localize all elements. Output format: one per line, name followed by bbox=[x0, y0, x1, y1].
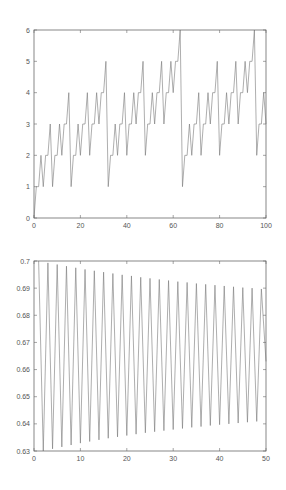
y-tick-label: 0.63 bbox=[16, 448, 30, 455]
x-tick-label: 40 bbox=[123, 222, 131, 229]
x-tick-label: 50 bbox=[262, 455, 270, 462]
x-tick-label: 60 bbox=[169, 222, 177, 229]
x-tick-label: 0 bbox=[32, 222, 36, 229]
x-tick-label: 80 bbox=[216, 222, 224, 229]
y-tick-label: 0.67 bbox=[16, 339, 30, 346]
y-tick-label: 0.65 bbox=[16, 393, 30, 400]
chart-top-binary-digit-sum: 0204060801000123456 bbox=[26, 27, 272, 230]
y-tick-label: 4 bbox=[26, 89, 30, 96]
x-tick-label: 40 bbox=[216, 455, 224, 462]
x-tick-label: 30 bbox=[169, 455, 177, 462]
y-tick-label: 5 bbox=[26, 58, 30, 65]
data-series-line bbox=[34, 30, 266, 218]
y-tick-label: 1 bbox=[26, 183, 30, 190]
x-tick-label: 0 bbox=[32, 455, 36, 462]
y-tick-label: 0.7 bbox=[20, 258, 30, 265]
y-tick-label: 2 bbox=[26, 152, 30, 159]
x-tick-label: 10 bbox=[77, 455, 85, 462]
y-tick-label: 0.64 bbox=[16, 420, 30, 427]
y-tick-label: 0.68 bbox=[16, 312, 30, 319]
data-series-line bbox=[39, 261, 266, 451]
x-tick-label: 20 bbox=[123, 455, 131, 462]
x-tick-label: 100 bbox=[260, 222, 272, 229]
figure: 0204060801000123456 010203040500.630.640… bbox=[0, 0, 286, 490]
y-tick-label: 3 bbox=[26, 121, 30, 128]
x-tick-label: 20 bbox=[77, 222, 85, 229]
y-tick-label: 0 bbox=[26, 215, 30, 222]
y-tick-label: 0.66 bbox=[16, 366, 30, 373]
y-tick-label: 6 bbox=[26, 27, 30, 34]
chart-bottom-oscillating-sequence: 010203040500.630.640.650.660.670.680.690… bbox=[16, 258, 270, 463]
y-tick-label: 0.69 bbox=[16, 285, 30, 292]
